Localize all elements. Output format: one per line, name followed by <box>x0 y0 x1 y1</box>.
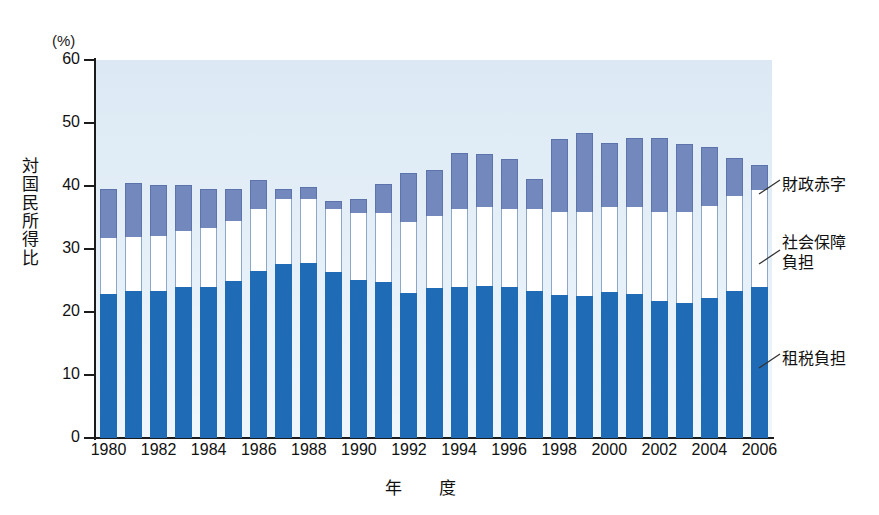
bar-segment <box>676 303 693 438</box>
bar-segment <box>225 189 242 221</box>
bar-segment <box>275 199 292 263</box>
legend-leader-line-social <box>758 248 780 262</box>
bar-segment <box>325 209 342 272</box>
bar-segment <box>701 206 718 297</box>
bar-segment <box>175 185 192 230</box>
bar-segment <box>701 298 718 438</box>
x-axis-tick-label: 1996 <box>486 441 532 459</box>
bar-segment <box>726 196 743 291</box>
bar-segment <box>300 263 317 438</box>
bar-stack <box>325 201 342 438</box>
y-axis-tick-label-wrap: 10 <box>38 375 80 376</box>
bar-segment <box>726 158 743 196</box>
bar-stack <box>250 180 267 438</box>
bar-segment <box>701 147 718 206</box>
bar-segment <box>300 199 317 263</box>
bar-segment <box>150 291 167 438</box>
bar-segment <box>601 143 618 207</box>
x-axis-ticks: 1980198219841986198819901992199419961998… <box>96 441 772 467</box>
bar-segment <box>601 292 618 438</box>
bar-stack <box>651 138 668 439</box>
bar-stack <box>275 189 292 438</box>
bar-segment <box>300 187 317 198</box>
bar-stack <box>601 143 618 438</box>
bar-segment <box>526 291 543 438</box>
bar-segment <box>125 183 142 237</box>
bar-segment <box>576 133 593 212</box>
bar-stack <box>526 179 543 438</box>
y-axis-tick-label-wrap: 30 <box>38 249 80 250</box>
bar-segment <box>400 222 417 293</box>
bar-stack <box>726 158 743 438</box>
y-axis-tick-mark <box>84 374 96 376</box>
bar-stack <box>751 165 768 438</box>
x-axis-tick-label: 1984 <box>186 441 232 459</box>
legend-leader-line-tax <box>758 352 780 366</box>
bar-segment <box>476 286 493 438</box>
bar-stack <box>426 170 443 438</box>
bar-segment <box>350 280 367 438</box>
bar-segment <box>626 294 643 438</box>
y-axis-tick-mark <box>84 248 96 250</box>
bar-stack <box>100 189 117 438</box>
bar-segment <box>200 228 217 287</box>
bar-segment <box>576 296 593 438</box>
bar-segment <box>426 288 443 438</box>
bar-segment <box>626 207 643 294</box>
bar-segment <box>250 180 267 209</box>
bar-segment <box>551 295 568 438</box>
bar-stack <box>476 154 493 438</box>
bar-segment <box>651 138 668 213</box>
y-axis-tick-label: 0 <box>44 428 80 446</box>
bar-segment <box>576 212 593 296</box>
y-axis-tick-label-wrap: 20 <box>38 312 80 313</box>
legend-label-social-line2: 負担 <box>782 253 846 273</box>
bar-segment <box>526 179 543 209</box>
bar-segment <box>676 212 693 302</box>
bar-segment <box>400 293 417 438</box>
bar-segment <box>325 201 342 209</box>
legend-label-tax: 租税負担 <box>782 349 846 369</box>
bar-segment <box>551 212 568 295</box>
legend-label-deficit: 財政赤字 <box>782 175 846 195</box>
bar-segment <box>601 207 618 292</box>
y-axis-title: 対 国 民 所 得 比 <box>17 158 43 268</box>
bar-stack <box>451 153 468 438</box>
bar-stack <box>626 138 643 438</box>
bar-segment <box>651 212 668 301</box>
bar-segment <box>400 173 417 222</box>
y-axis-tick-mark <box>84 122 96 124</box>
x-axis-tick-label: 1982 <box>136 441 182 459</box>
bar-stack <box>501 159 518 438</box>
bar-segment <box>175 231 192 288</box>
chart-figure: (%) 対 国 民 所 得 比 0102030405060 1980198219… <box>0 0 879 515</box>
bar-segment <box>501 287 518 438</box>
bar-segment <box>626 138 643 208</box>
bar-stack <box>576 133 593 438</box>
y-axis-tick-label-wrap: 50 <box>38 123 80 124</box>
bar-stack <box>150 185 167 438</box>
bar-stack <box>701 147 718 438</box>
bar-segment <box>375 213 392 282</box>
bar-stack <box>125 183 142 438</box>
bar-segment <box>150 185 167 235</box>
bar-stack <box>175 185 192 438</box>
y-axis-tick-label: 30 <box>44 239 80 257</box>
bar-segment <box>150 236 167 291</box>
x-axis-title: 年 度 <box>0 474 840 499</box>
bar-stack <box>375 184 392 438</box>
bar-segment <box>501 209 518 287</box>
bar-segment <box>476 207 493 285</box>
bar-segment <box>426 170 443 216</box>
y-axis-tick-label: 20 <box>44 302 80 320</box>
bar-segment <box>175 287 192 438</box>
x-axis-tick-label: 2000 <box>586 441 632 459</box>
bar-segment <box>551 139 568 212</box>
y-axis-tick-mark <box>84 185 96 187</box>
bar-segment <box>225 221 242 281</box>
x-axis-tick-label: 1980 <box>86 441 132 459</box>
bar-segment <box>275 264 292 439</box>
x-axis-tick-label: 1998 <box>536 441 582 459</box>
bar-segment <box>651 301 668 438</box>
bar-segment <box>200 287 217 438</box>
